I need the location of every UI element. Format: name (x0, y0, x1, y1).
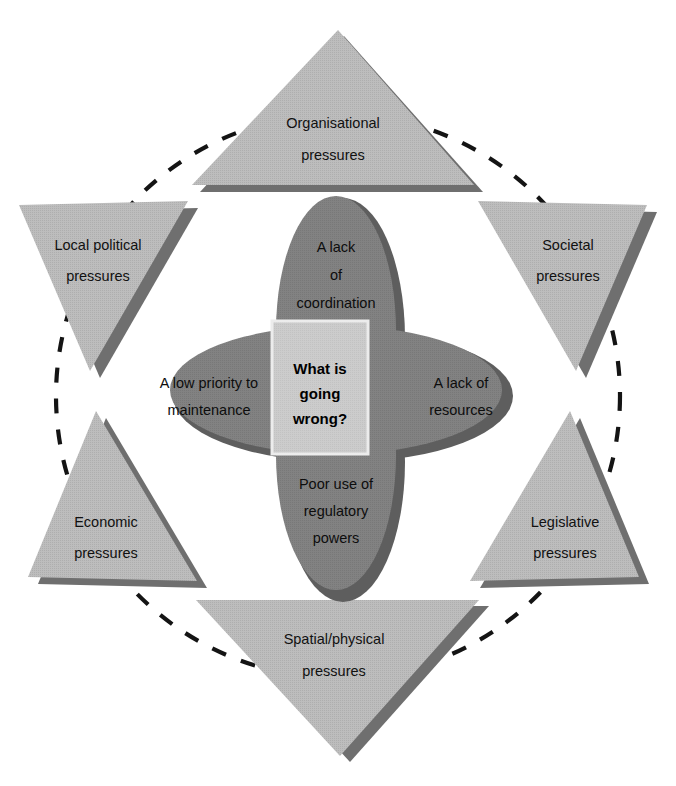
pressure-label-local-political-line-1: pressures (66, 268, 130, 284)
pressure-label-legislative-line-1: pressures (533, 545, 597, 561)
pressure-label-economic-line-0: Economic (74, 514, 138, 530)
pressure-label-spatial-physical-line-0: Spatial/physical (284, 631, 385, 647)
pressure-triangle-organisational: Organisational pressures (192, 30, 483, 192)
petal-label-coordination-line-1: of (330, 267, 343, 283)
center-label-line-0: What is (293, 360, 346, 377)
pressure-label-organisational-line-1: pressures (301, 147, 365, 163)
center-question-box: What is going wrong? (272, 321, 368, 454)
petal-label-resources-line-1: resources (429, 402, 493, 418)
petal-label-coordination-line-2: coordination (297, 295, 376, 311)
petal-label-regulatory-line-0: Poor use of (299, 476, 374, 492)
petal-label-resources-line-0: A lack of (434, 375, 490, 391)
pressure-triangle-spatial-physical: Spatial/physical pressures (196, 600, 489, 762)
triangle-fill-local-political (19, 201, 188, 371)
pressure-label-organisational-line-0: Organisational (286, 115, 380, 131)
petal-label-regulatory-line-2: powers (313, 530, 360, 546)
pressure-triangle-legislative: Legislative pressures (470, 411, 649, 588)
pressure-label-local-political-line-0: Local political (54, 237, 141, 253)
pressures-diagram: Organisational pressures Local political… (0, 0, 676, 786)
pressure-label-legislative-line-0: Legislative (531, 514, 600, 530)
pressure-label-societal-line-0: Societal (542, 237, 594, 253)
petal-label-regulatory-line-1: regulatory (304, 503, 369, 519)
pressure-label-economic-line-1: pressures (74, 545, 138, 561)
pressure-triangle-local-political: Local political pressures (19, 201, 198, 378)
petal-label-maintenance-line-0: A low priority to (160, 375, 258, 391)
center-label-line-1: going (300, 385, 341, 402)
pressure-triangle-economic: Economic pressures (28, 411, 207, 588)
center-label-line-2: wrong? (292, 410, 347, 427)
pressure-triangle-societal: Societal pressures (478, 201, 657, 378)
pressure-label-spatial-physical-line-1: pressures (302, 663, 366, 679)
diagram-canvas: Organisational pressures Local political… (0, 0, 676, 786)
pressure-label-societal-line-1: pressures (536, 268, 600, 284)
petal-label-maintenance-line-1: maintenance (167, 402, 250, 418)
petal-label-coordination-line-0: A lack (317, 239, 356, 255)
